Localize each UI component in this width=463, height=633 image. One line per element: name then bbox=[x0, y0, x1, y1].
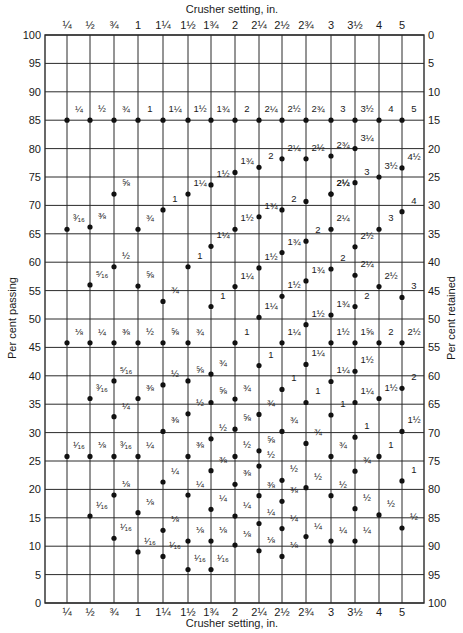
point-label: ½ bbox=[243, 439, 251, 450]
data-point bbox=[87, 454, 92, 459]
data-point bbox=[256, 315, 261, 320]
top-axis-title: Crusher setting, in. bbox=[186, 3, 278, 15]
data-point bbox=[87, 224, 92, 229]
point-label: ¹⁄₁₆ bbox=[73, 439, 85, 450]
point-label: ½ bbox=[171, 368, 179, 379]
point-label: ¼ bbox=[219, 492, 228, 503]
y-tick-left: 60 bbox=[29, 256, 41, 268]
data-point bbox=[111, 340, 116, 345]
data-point bbox=[232, 396, 237, 401]
y-tick-right: 30 bbox=[428, 199, 440, 211]
point-label: ¼ bbox=[146, 439, 155, 450]
data-point bbox=[64, 340, 69, 345]
point-label: ⅝ bbox=[146, 269, 154, 280]
y-tick-right: 90 bbox=[428, 540, 440, 552]
x-tick-bottom: ¼ bbox=[62, 606, 72, 618]
point-label: 1¾ bbox=[336, 298, 350, 309]
data-point bbox=[208, 182, 213, 187]
point-label: 1 bbox=[268, 349, 273, 360]
y-tick-right: 0 bbox=[428, 29, 434, 41]
x-tick-top: 2½ bbox=[274, 19, 289, 31]
data-point bbox=[303, 278, 308, 283]
data-point bbox=[352, 369, 357, 374]
y-tick-right: 75 bbox=[428, 455, 440, 467]
data-point bbox=[256, 548, 261, 553]
point-label: ⅛ bbox=[219, 524, 227, 535]
point-label: ¼ bbox=[171, 465, 180, 476]
data-point bbox=[160, 479, 165, 484]
x-tick-bottom: 1¾ bbox=[203, 606, 219, 618]
point-label: 1 bbox=[172, 193, 177, 204]
point-label: 1½ bbox=[311, 308, 324, 319]
y-tick-right: 70 bbox=[428, 427, 440, 439]
point-label: 1½ bbox=[193, 103, 206, 114]
data-point bbox=[399, 429, 404, 434]
point-label: 2¼ bbox=[336, 212, 350, 223]
point-label: ⅛ bbox=[290, 539, 298, 550]
data-point bbox=[64, 227, 69, 232]
point-label: ⅛ bbox=[122, 478, 130, 489]
data-point bbox=[352, 118, 357, 123]
data-point bbox=[232, 542, 237, 547]
point-label: ³⁄₁₆ bbox=[96, 382, 108, 393]
data-point bbox=[352, 435, 357, 440]
point-label: 3 bbox=[364, 166, 369, 177]
y-tick-left: 55 bbox=[29, 285, 41, 297]
y-tick-right: 20 bbox=[428, 143, 440, 155]
x-tick-bottom: 4 bbox=[376, 606, 382, 618]
data-point bbox=[111, 118, 116, 123]
data-point bbox=[135, 549, 140, 554]
point-label: ½ bbox=[122, 250, 130, 261]
data-point bbox=[160, 118, 165, 123]
data-point bbox=[160, 382, 165, 387]
x-tick-bottom: ½ bbox=[85, 606, 94, 618]
data-point bbox=[376, 227, 381, 232]
data-point bbox=[111, 414, 116, 419]
data-point bbox=[208, 371, 213, 376]
data-point bbox=[87, 513, 92, 518]
data-point bbox=[256, 165, 261, 170]
point-label: 2 bbox=[364, 290, 369, 301]
data-point bbox=[399, 525, 404, 530]
data-point bbox=[256, 363, 261, 368]
data-points: ¼½¾11¼1½1¾22¼2½2¾33½453¼1¾22¼2½2¾3½4½⅝1¼… bbox=[64, 103, 420, 572]
data-point bbox=[160, 340, 165, 345]
point-label: ⅜ bbox=[171, 414, 179, 425]
data-point bbox=[135, 118, 140, 123]
point-label: 1½ bbox=[384, 382, 397, 393]
point-label: 3½ bbox=[384, 160, 397, 171]
data-point bbox=[279, 207, 284, 212]
point-label: 1 bbox=[244, 326, 249, 337]
y-tick-left: 80 bbox=[29, 143, 41, 155]
point-label: ⅝ bbox=[219, 385, 227, 396]
data-point bbox=[185, 191, 190, 196]
point-label: ½ bbox=[146, 326, 154, 337]
point-label: 4½ bbox=[407, 151, 420, 162]
point-label: 1 bbox=[315, 385, 320, 396]
point-label: ⅝ bbox=[171, 326, 179, 337]
data-point bbox=[279, 294, 284, 299]
point-label: 3¼ bbox=[360, 132, 374, 143]
data-point bbox=[208, 507, 213, 512]
point-label: 3½ bbox=[360, 103, 373, 114]
data-point bbox=[208, 244, 213, 249]
data-point bbox=[376, 454, 381, 459]
point-label: ⁵⁄₁₆ bbox=[96, 268, 109, 279]
y-tick-left: 45 bbox=[29, 341, 41, 353]
data-point bbox=[64, 454, 69, 459]
y-tick-left: 10 bbox=[29, 540, 41, 552]
data-point bbox=[279, 526, 284, 531]
data-point bbox=[328, 340, 333, 345]
x-tick-bottom: 5 bbox=[399, 606, 405, 618]
x-tick-top: 4 bbox=[376, 19, 382, 31]
point-label: ¾ bbox=[363, 454, 372, 465]
point-label: 1½ bbox=[216, 168, 229, 179]
point-label: ⅜ bbox=[267, 479, 275, 490]
data-point bbox=[185, 264, 190, 269]
point-label: ½ bbox=[387, 498, 395, 509]
y-tick-left: 90 bbox=[29, 86, 41, 98]
data-point bbox=[352, 304, 357, 309]
data-point bbox=[352, 244, 357, 249]
data-point bbox=[111, 378, 116, 383]
data-point bbox=[111, 536, 116, 541]
